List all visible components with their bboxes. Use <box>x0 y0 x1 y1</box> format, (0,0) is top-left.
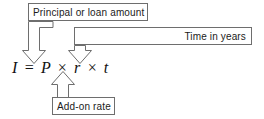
arrow-to-principal <box>23 22 54 64</box>
callout-principal-label: Principal or loan amount <box>33 7 144 18</box>
callout-principal: Principal or loan amount <box>28 3 148 21</box>
formula-expression: I = P × r × t <box>12 59 109 77</box>
diagram-canvas: Principal or loan amount Time in years A… <box>0 0 264 119</box>
callout-time-label: Time in years <box>184 31 246 42</box>
callout-add-on-rate: Add-on rate <box>52 97 115 115</box>
callout-time: Time in years <box>74 27 252 45</box>
callout-add-on-rate-label: Add-on rate <box>57 101 111 112</box>
